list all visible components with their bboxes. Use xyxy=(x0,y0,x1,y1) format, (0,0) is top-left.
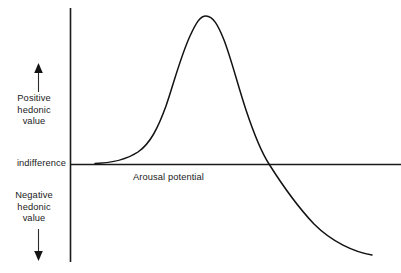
negative-label-line-3: value xyxy=(0,213,68,225)
positive-label-line-2: hedonic xyxy=(0,105,68,117)
positive-label-line-1: Positive xyxy=(0,93,68,105)
indifference-label: indifference xyxy=(0,158,66,170)
positive-hedonic-value-label: Positive hedonic value xyxy=(0,93,68,128)
up-arrow-icon xyxy=(34,63,43,92)
positive-label-line-3: value xyxy=(0,116,68,128)
negative-hedonic-value-label: Negative hedonic value xyxy=(0,190,68,225)
hedonic-value-curve xyxy=(95,16,372,255)
down-arrow-icon xyxy=(34,229,43,261)
negative-label-line-2: hedonic xyxy=(0,202,68,214)
chart-plot-area xyxy=(0,0,401,273)
x-axis-label: Arousal potential xyxy=(133,172,204,184)
negative-label-line-1: Negative xyxy=(0,190,68,202)
wundt-curve-figure: Positive hedonic value indifference Nega… xyxy=(0,0,401,273)
